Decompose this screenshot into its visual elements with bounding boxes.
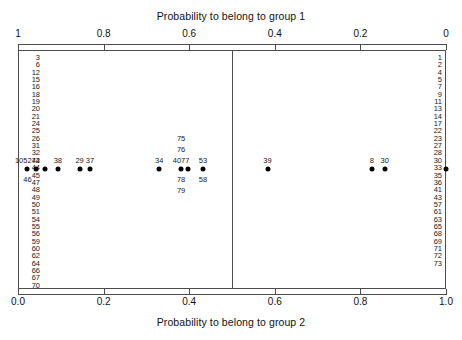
data-point (265, 167, 270, 172)
top-axis-tick-label: 0 (443, 28, 449, 39)
left-group-id-column: 3612151618192021242526313242444547484950… (22, 54, 40, 289)
data-point-label: 34 (155, 157, 163, 165)
data-point-label: 53 (199, 157, 207, 165)
top-axis-tick-labels: 10.80.60.40.20 (0, 28, 462, 42)
data-point (157, 167, 162, 172)
data-point (55, 167, 60, 172)
data-point-label: 75 (177, 135, 185, 143)
bottom-axis-tick-label: 1.0 (439, 296, 453, 307)
bottom-axis-tick-label: 0.4 (182, 296, 196, 307)
bottom-axis-tick-label: 0.6 (268, 296, 282, 307)
data-point-label: 4077 (173, 157, 190, 165)
top-axis-tick-mark (446, 44, 447, 50)
bottom-axis-tick-label: 0.8 (353, 296, 367, 307)
data-point-label: 38 (54, 157, 62, 165)
data-point-label: 76 (177, 146, 185, 154)
data-point-label: 37 (86, 157, 94, 165)
bottom-axis-line (18, 294, 446, 295)
data-point-label: 8 (370, 157, 374, 165)
decision-boundary-line (232, 50, 233, 289)
right-group-id-column: 1245791113141722232728303335364143576163… (424, 54, 442, 267)
data-point-label: 78 (177, 176, 185, 184)
data-point (186, 167, 191, 172)
bottom-axis-tick-mark (446, 289, 447, 295)
bottom-axis-tick-label: 0.2 (97, 296, 111, 307)
data-point (200, 167, 205, 172)
classification-probability-plot: Probability to belong to group 1 10.80.6… (0, 0, 462, 340)
data-point (77, 167, 82, 172)
data-point (444, 167, 449, 172)
data-point (25, 167, 30, 172)
data-point (179, 167, 184, 172)
top-axis-tick-label: 0.4 (268, 28, 282, 39)
data-point-label: 58 (199, 176, 207, 184)
group-id-label: 70 (22, 282, 40, 289)
group-id-label: 73 (424, 260, 442, 267)
data-point-label: 46 (23, 176, 31, 184)
data-point (42, 167, 47, 172)
bottom-axis-tick-label: 0.0 (11, 296, 25, 307)
data-point-label: 30 (381, 157, 389, 165)
top-axis-tick-label: 0.8 (97, 28, 111, 39)
bottom-axis-tick-labels: 0.00.20.40.60.81.0 (0, 296, 462, 310)
data-point-label: 29 (75, 157, 83, 165)
data-point (34, 167, 39, 172)
data-point (87, 167, 92, 172)
top-axis-tick-label: 0.6 (182, 28, 196, 39)
data-point (382, 167, 387, 172)
bottom-axis-title: Probability to belong to group 2 (0, 316, 462, 328)
data-point-label: 79 (177, 187, 185, 195)
top-axis-tick-label: 0.2 (353, 28, 367, 39)
top-axis-line (18, 44, 446, 45)
data-point-label: 105274 (15, 157, 40, 165)
top-axis-tick-label: 1 (15, 28, 21, 39)
top-axis-title: Probability to belong to group 1 (0, 10, 462, 22)
data-point (369, 167, 374, 172)
data-point-label: 39 (263, 157, 271, 165)
